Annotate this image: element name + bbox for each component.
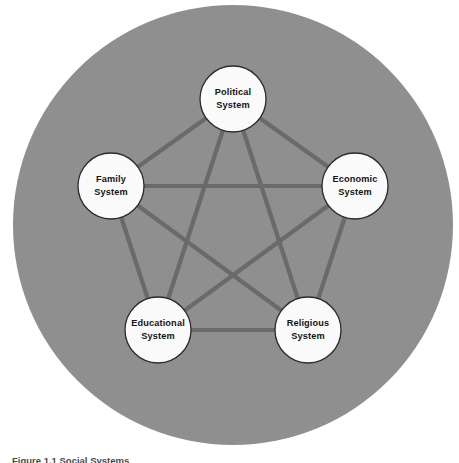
node-economic[interactable]: EconomicSystem bbox=[322, 153, 388, 219]
node-circle-political bbox=[200, 66, 266, 132]
node-educational[interactable]: EducationalSystem bbox=[125, 297, 191, 363]
node-circle-economic bbox=[322, 153, 388, 219]
node-political[interactable]: PoliticalSystem bbox=[200, 66, 266, 132]
node-circle-family bbox=[78, 153, 144, 219]
node-circle-religious bbox=[275, 297, 341, 363]
node-religious[interactable]: ReligiousSystem bbox=[275, 297, 341, 363]
figure-caption: Figure 1.1 Social Systems bbox=[12, 455, 452, 463]
node-family[interactable]: FamilySystem bbox=[78, 153, 144, 219]
node-circle-educational bbox=[125, 297, 191, 363]
social-systems-diagram: PoliticalSystemEconomicSystemReligiousSy… bbox=[0, 0, 459, 463]
figure-root: PoliticalSystemEconomicSystemReligiousSy… bbox=[0, 0, 459, 463]
